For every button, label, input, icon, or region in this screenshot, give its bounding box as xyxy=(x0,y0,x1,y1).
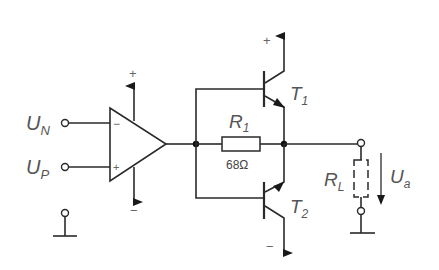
transistor-t2 xyxy=(264,144,284,253)
label-t1: T1 xyxy=(290,83,308,108)
opamp-minus: − xyxy=(113,117,120,131)
transistor-t1 xyxy=(264,36,285,144)
circuit-diagram: UN UP − + + − R1 68Ω + T1 xyxy=(0,0,439,270)
opamp-supply-neg: − xyxy=(130,203,138,218)
label-rl: RL xyxy=(324,169,344,194)
opamp: − + + − xyxy=(110,66,166,218)
label-ua: Ua xyxy=(390,166,411,191)
opamp-plus: + xyxy=(113,161,119,173)
label-t2: T2 xyxy=(290,196,309,221)
label-r1: R1 xyxy=(229,111,249,135)
output-voltage-arrow xyxy=(377,153,385,205)
r1-value: 68Ω xyxy=(226,158,248,172)
label-up: UP xyxy=(26,156,49,182)
load-resistor xyxy=(350,140,375,234)
t1-supply: + xyxy=(263,33,271,48)
input-up xyxy=(62,164,111,171)
resistor-r1 xyxy=(196,137,284,151)
t2-supply: − xyxy=(266,239,274,254)
ground-symbol xyxy=(53,210,77,237)
label-un: UN xyxy=(26,112,50,138)
input-un xyxy=(62,120,111,127)
opamp-supply-pos: + xyxy=(129,66,137,81)
